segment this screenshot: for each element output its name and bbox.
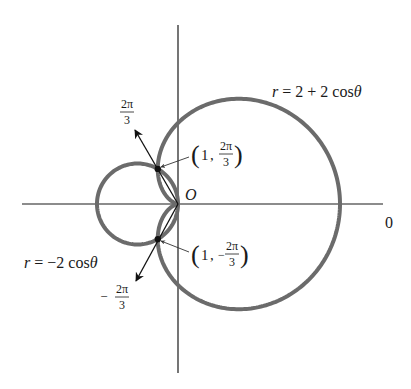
pointer-arrow-lower [161,241,189,252]
pointer-arrow-upper [161,157,189,167]
svg-text:2π: 2π [116,282,128,296]
svg-text:,: , [210,247,214,263]
svg-text:): ) [234,140,243,169]
svg-text:1: 1 [201,247,209,263]
svg-text:−: − [100,289,107,304]
polar-diagram: O 0 r = 2 + 2 cosθ r = −2 cosθ 2π 3 − 2π… [0,0,411,389]
svg-text:): ) [240,240,249,269]
svg-text:2π: 2π [226,239,238,253]
svg-text:(: ( [191,240,200,269]
intersection-label-upper: ( 1 , 2π 3 ) [191,139,243,169]
svg-text:3: 3 [124,113,130,127]
svg-text:,: , [210,147,214,163]
svg-text:3: 3 [119,298,125,312]
ray-angle-label-upper: 2π 3 [120,97,134,127]
svg-text:2π: 2π [121,97,133,111]
ray-angle-label-lower: − 2π 3 [100,282,129,312]
polar-axis-zero-label: 0 [385,214,393,231]
svg-text:−: − [218,248,225,262]
svg-text:1: 1 [201,147,209,163]
svg-text:(: ( [191,140,200,169]
svg-text:2π: 2π [220,139,232,153]
cardioid-equation-label: r = 2 + 2 cosθ [272,83,362,100]
intersection-label-lower: ( 1 , − 2π 3 ) [191,239,249,269]
svg-text:3: 3 [223,155,229,169]
intersection-point-lower [155,236,161,242]
intersection-point-upper [155,166,161,172]
origin-label: O [185,186,197,203]
circle-equation-label: r = −2 cosθ [24,254,98,271]
svg-text:3: 3 [229,255,235,269]
